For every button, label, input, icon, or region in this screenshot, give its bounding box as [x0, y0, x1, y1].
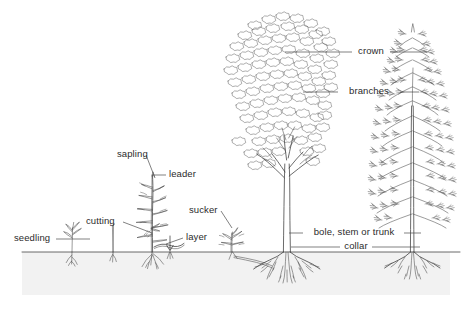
diagram-canvas: .ln{fill:none;stroke:#3a3a3a;stroke-widt…: [0, 0, 471, 319]
leader-line-sucker: [221, 211, 232, 228]
label-sapling: sapling: [117, 149, 148, 159]
leader-line-cutting: [123, 222, 152, 233]
soil-band: [22, 252, 450, 295]
tree-diagram-illustration: .ln{fill:none;stroke:#3a3a3a;stroke-widt…: [0, 0, 471, 319]
label-collar: collar: [344, 241, 367, 251]
conifer-foliage: [367, 29, 456, 223]
conifer-branches: [377, 38, 448, 228]
label-leader: leader: [169, 169, 196, 179]
label-cutting: cutting: [86, 216, 115, 226]
label-branches: branches: [349, 86, 389, 96]
label-bole-stem-trunk: bole, stem or trunk: [314, 227, 395, 237]
tree-conifer: [367, 24, 456, 279]
leader-line-layer: [166, 238, 183, 244]
label-layer: layer: [186, 232, 207, 242]
label-sucker: sucker: [189, 205, 218, 215]
label-crown: crown: [358, 46, 384, 56]
label-seedling: seedling: [14, 233, 50, 243]
